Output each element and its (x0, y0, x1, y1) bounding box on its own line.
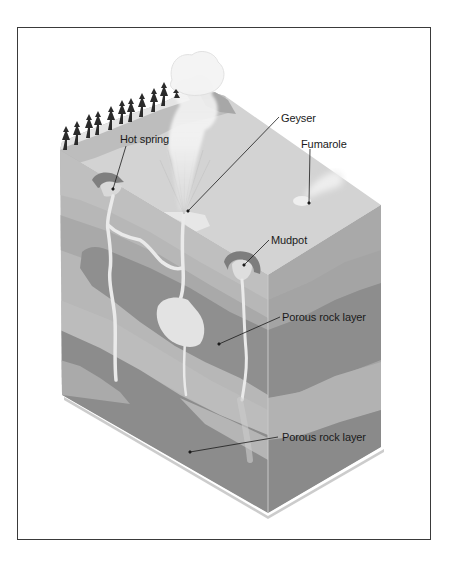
label-fumarole: Fumarole (301, 138, 347, 150)
geothermal-block-diagram (0, 0, 454, 571)
label-porous-rock-upper: Porous rock layer (282, 311, 366, 323)
label-geyser: Geyser (281, 112, 316, 124)
label-porous-rock-lower: Porous rock layer (282, 431, 366, 443)
fumarole-vent (293, 196, 311, 206)
label-mudpot: Mudpot (271, 234, 307, 246)
label-hot-spring: Hot spring (120, 133, 169, 145)
